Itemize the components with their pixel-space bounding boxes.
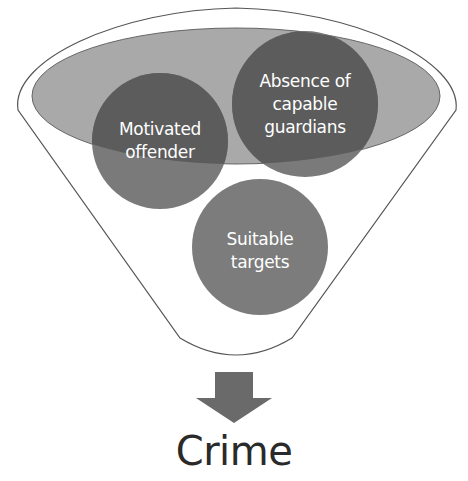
label-line: Absence of bbox=[232, 70, 378, 93]
label-capable-guardians: Absence of capable guardians bbox=[232, 70, 378, 139]
label-motivated-offender: Motivated offender bbox=[92, 118, 228, 164]
label-line: guardians bbox=[232, 116, 378, 139]
label-line: offender bbox=[92, 141, 228, 164]
crime-output-label: Crime bbox=[0, 428, 468, 474]
label-line: Suitable bbox=[192, 228, 328, 251]
label-line: Motivated bbox=[92, 118, 228, 141]
label-line: targets bbox=[192, 251, 328, 274]
label-suitable-targets: Suitable targets bbox=[192, 228, 328, 274]
down-arrow-icon bbox=[196, 372, 272, 423]
label-line: capable bbox=[232, 93, 378, 116]
